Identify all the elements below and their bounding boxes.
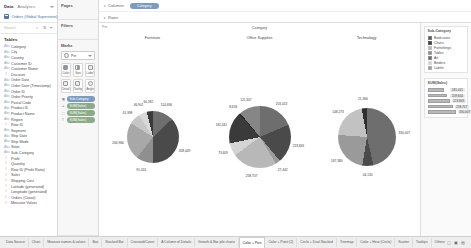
pie-data-label: 148,273 [332,110,344,114]
pie-data-label: 73,409 [218,151,228,155]
marks-label-button[interactable]: Label [85,63,95,77]
field-label: Order Date (Timestamp) [11,84,51,88]
new-dashboard-icon[interactable]: ▣ [454,240,458,245]
sort-icon[interactable]: ⇅ [42,26,46,30]
field-label: Customer ID [11,62,32,66]
legend-label: Art [434,56,438,60]
field-label: Order ID [11,90,25,94]
field-label: Product Name [11,112,35,116]
data-source-row[interactable]: Orders (Global Superstore) [0,12,57,23]
field-label: Measure Values [11,201,37,205]
field-label: City [11,50,17,54]
size-legend-item[interactable]: 330,007 [428,109,465,115]
color-legend-item[interactable]: Labels [428,65,465,70]
marks-pill[interactable]: SUM(Sales) [67,117,96,123]
pages-title: Pages [61,3,95,8]
worksheet-tab[interactable]: A Column of Details [158,238,195,247]
color-legend[interactable]: Sub-Category BookcasesChairsFurnishingsT… [424,26,468,73]
search-icon[interactable]: ⌕ [35,26,39,30]
legend-color-swatch [428,41,432,45]
size-legend[interactable]: SUM(Sales) 181,441209,844223,843258,7073… [424,78,468,118]
search-input[interactable]: Search [4,26,32,30]
pages-card[interactable]: Pages [58,0,98,20]
worksheet-tab[interactable]: Crosstab/Cover [128,238,159,247]
marks-pill[interactable]: Sub-Category [67,96,96,102]
marks-color-button[interactable]: Color [61,63,71,77]
pie-chart[interactable] [127,111,179,163]
worksheet-tab[interactable]: Color + Heat (Circle) [357,238,395,247]
columns-pill-category[interactable]: Category [130,3,159,9]
field-search-row[interactable]: Search ⌕ ⇅ ▾ [0,23,57,34]
marks-size-button[interactable]: Size [73,63,83,77]
marks-pill-row[interactable]: ▦Sub-Category [61,96,95,102]
worksheet-tab[interactable]: Color + Pies [239,237,266,248]
marks-pill-row[interactable]: ⬚SUM(Sales) [61,110,95,116]
pie-data-label: 114,696 [161,103,172,107]
filters-card[interactable]: Filters [58,20,98,40]
worksheet-tab[interactable]: Treemap [337,238,357,247]
tab-analytics[interactable]: Analytics [17,4,35,9]
marks-tooltip-button[interactable]: Tooltip [73,79,83,93]
worksheet-tab[interactable]: Box [89,238,102,247]
worksheet-tab[interactable]: Measure names & values [44,238,89,247]
tab-data[interactable]: Data [4,4,13,9]
worksheet-tab[interactable]: Data Source [3,238,29,247]
worksheet-tab[interactable]: Stacked Bar [102,238,127,247]
tooltip-icon [75,81,80,86]
pie-data-label: 223,843 [293,144,305,148]
field-label: Product ID [11,106,28,110]
marks-card: Marks Pie ColorSizeLabelDetailTooltipAng… [58,40,98,236]
mark-type-dropdown[interactable]: Pie [61,51,95,60]
field-label: Discount [11,73,25,77]
marks-pill-row[interactable]: ∡SUM(Sales) [61,103,95,109]
pie-cell: Furniture114,696328,44991,024206,96661,3… [99,35,206,232]
shelf-container: Columns Category Rows [99,0,471,23]
marks-button-label: Label [87,71,94,75]
worksheet-tab[interactable]: Growth & Bar pile chartz [195,238,239,247]
pie-cell: Technology330,00744,130167,380148,27321,… [313,35,420,232]
field-label: Sales [11,173,20,177]
mark-type-value: Pie [71,54,86,58]
pie-chart[interactable] [338,108,396,166]
more-options-icon[interactable]: ▾ [49,26,53,30]
pie-chart[interactable] [229,106,291,168]
field-label: Longitude (generated) [11,190,47,194]
marks-button-label: Angle [86,87,93,91]
field-row[interactable]: #Measure Values [0,201,57,207]
field-label: Row ID [11,123,23,127]
marks-button-label: Detail [62,87,69,91]
marks-pill-row[interactable]: TSUM(Sales) [61,117,95,123]
pie-data-label: 328,449 [179,149,191,153]
marks-button-label: Tooltip [74,87,82,91]
field-label: Segment [11,129,26,133]
field-label: Postal Code [11,101,31,105]
new-story-icon[interactable]: ▤ [461,240,465,245]
pie-data-label: 34,282 [143,100,153,104]
tables-heading: Tables [0,34,57,44]
worksheet-tab[interactable]: Circle + Dual Stacked [297,238,337,247]
filters-title: Filters [61,23,95,28]
marks-pill[interactable]: SUM(Sales) [67,110,96,116]
pie-data-label: 46,901 [134,103,144,107]
size-legend-bar [428,88,444,92]
worksheet-tab[interactable]: Tooltips [413,238,432,247]
worksheet-tab[interactable]: Scatter [395,238,413,247]
rows-shelf[interactable]: Rows [99,11,471,22]
marks-angle-button[interactable]: Angle [85,79,95,93]
new-worksheet-icon[interactable]: ▢ [447,240,451,245]
worksheet-tab[interactable]: Color + Point (2) [265,238,297,247]
worksheet-tab-bar[interactable]: Data SourceChartMeasure names & valuesBo… [0,236,471,248]
marks-detail-button[interactable]: Detail [61,79,71,93]
worksheet-tab[interactable]: Others [432,238,447,247]
legend-column: Sub-Category BookcasesChairsFurnishingsT… [420,23,471,236]
marks-pill[interactable]: SUM(Sales) [67,103,96,109]
field-list[interactable]: AbcCategoryAbcCityAbcCountryAbcCustomer … [0,44,57,236]
chevron-down-icon[interactable] [88,55,92,57]
chevron-down-icon[interactable] [50,6,54,8]
columns-shelf[interactable]: Columns Category [99,0,471,11]
field-label: Row ID (Profit Ratio) [11,168,45,172]
viz-body: Pie Category Furniture114,696328,44991,0… [99,23,471,236]
chart-canvas[interactable]: Pie Category Furniture114,696328,44991,0… [99,23,420,236]
field-label: Latitude (generated) [11,185,44,189]
worksheet-tab[interactable]: Chart [29,238,44,247]
